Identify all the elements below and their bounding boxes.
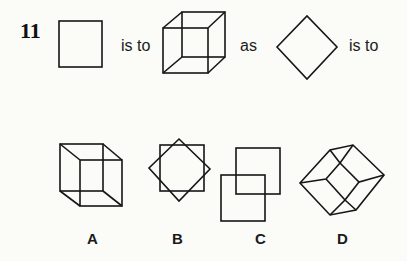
option-d-figure: [300, 145, 384, 215]
phrase-as: as: [240, 37, 257, 55]
option-d-label[interactable]: D: [337, 230, 348, 247]
phrase-is-to-2: is to: [349, 37, 378, 55]
option-c-figure: [221, 148, 280, 221]
option-c-label[interactable]: C: [255, 230, 266, 247]
square-figure: [59, 21, 102, 67]
option-b-label[interactable]: B: [172, 230, 183, 247]
phrase-is-to-1: is to: [121, 37, 150, 55]
diamond-figure: [277, 16, 337, 79]
figures-canvas: [0, 0, 407, 261]
cube-figure: [163, 12, 225, 73]
option-a-figure: [60, 144, 122, 206]
option-a-label[interactable]: A: [87, 230, 98, 247]
option-b-figure: [149, 139, 210, 201]
